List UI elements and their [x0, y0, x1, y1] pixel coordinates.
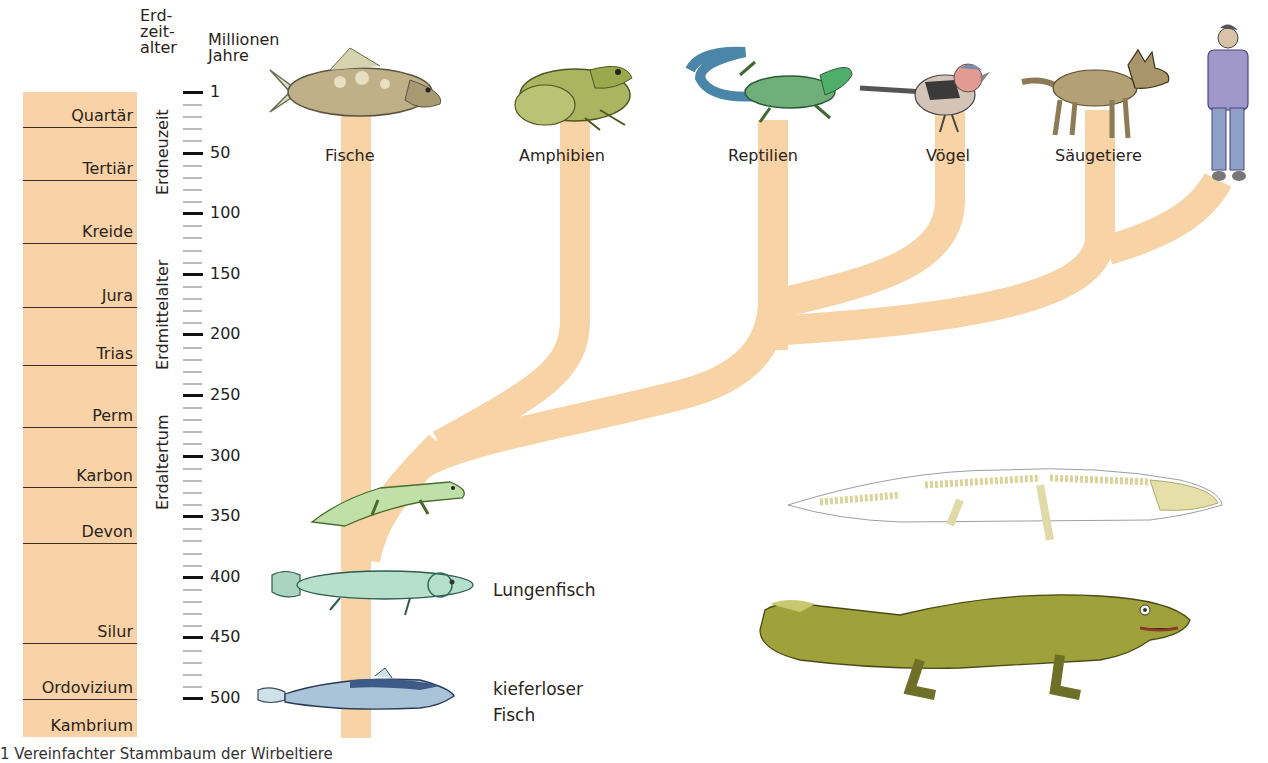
label-kieferloser-line-1: kieferloser [493, 676, 583, 702]
figure-caption: 1 Vereinfachter Stammbaum der Wirbeltier… [0, 745, 333, 763]
jawless-fish-icon [258, 668, 454, 709]
ichthyostega-icon [760, 595, 1190, 695]
early-tetrapod-icon [312, 482, 464, 526]
label-lungenfisch: Lungenfisch [493, 577, 595, 603]
frog-icon [515, 66, 632, 130]
bird-icon [860, 64, 990, 132]
group-label-amphibien: Amphibien [519, 146, 605, 165]
lizard-icon [690, 52, 852, 122]
label-kieferloser-line-2: Fisch [493, 702, 583, 728]
carp-icon [270, 48, 441, 116]
label-kieferloser-fisch: kieferloser Fisch [493, 676, 583, 728]
group-label-voegel: Vögel [926, 146, 970, 165]
human-icon [1208, 24, 1248, 181]
lungfish-icon [272, 571, 473, 615]
dog-icon [1022, 50, 1169, 138]
group-label-saeugetiere: Säugetiere [1055, 146, 1142, 165]
ichthyostega-skeleton-icon [788, 469, 1222, 540]
group-label-fische: Fische [325, 146, 375, 165]
group-label-reptilien: Reptilien [728, 146, 798, 165]
